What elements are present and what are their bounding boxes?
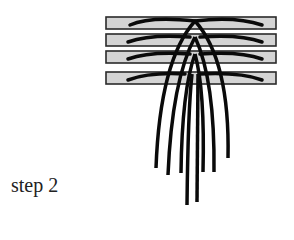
strands <box>156 21 228 205</box>
step-caption: step 2 <box>11 174 58 197</box>
strand-8 <box>197 74 198 202</box>
